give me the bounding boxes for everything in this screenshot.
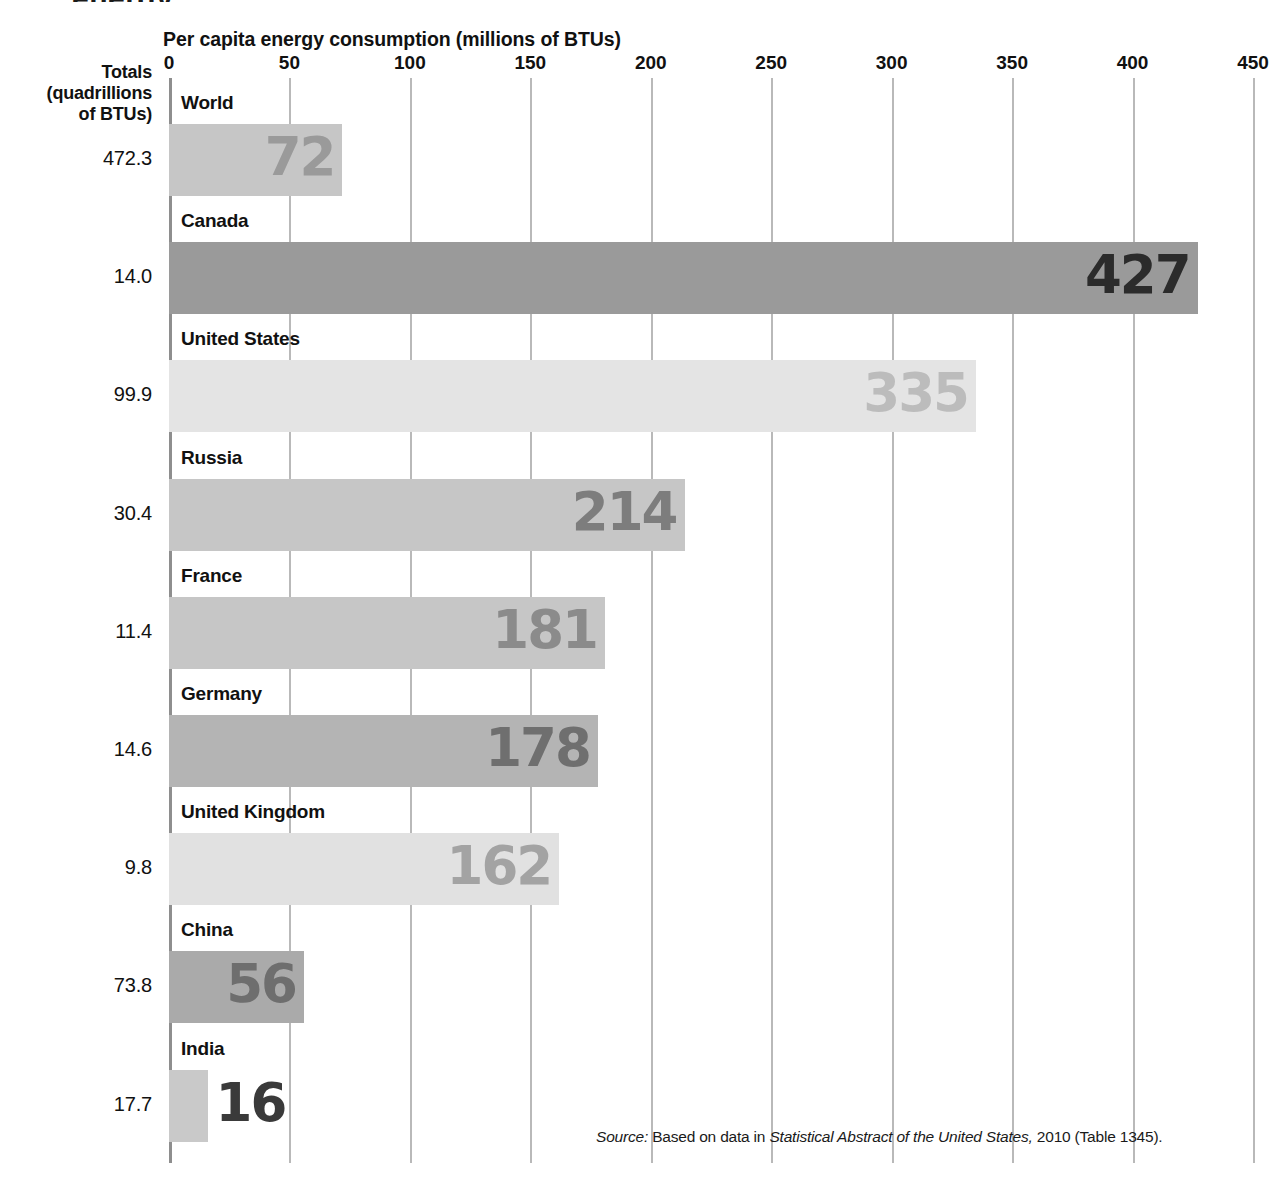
bar-value-world: 72: [169, 130, 342, 183]
bar-value-russia: 214: [169, 485, 685, 538]
x-tick-450: 450: [1237, 52, 1269, 74]
bar-label-france: France: [181, 565, 242, 587]
total-value-france: 11.4: [0, 620, 152, 643]
source-text-a: Based on data in: [652, 1128, 765, 1145]
plot-area: World72Canada427United States335Russia21…: [169, 78, 1253, 1163]
bar-value-united-kingdom: 162: [169, 839, 559, 892]
x-tick-200: 200: [635, 52, 667, 74]
bar-row: World72: [169, 78, 1253, 196]
x-tick-400: 400: [1117, 52, 1149, 74]
total-value-germany: 14.6: [0, 738, 152, 761]
energy-consumption-bar-chart: energy Per capita energy consumption (mi…: [0, 0, 1271, 1186]
bar-row: United Kingdom162: [169, 787, 1253, 905]
bar-label-russia: Russia: [181, 447, 242, 469]
totals-header-line-1: Totals: [0, 62, 152, 83]
bar-label-united-states: United States: [181, 328, 300, 350]
gridline-450: [1253, 78, 1255, 1163]
bar-label-india: India: [181, 1038, 224, 1060]
x-tick-50: 50: [279, 52, 300, 74]
bar-label-united-kingdom: United Kingdom: [181, 801, 325, 823]
bar-value-france: 181: [169, 603, 605, 656]
total-value-china: 73.8: [0, 974, 152, 997]
bar-row: United States335: [169, 314, 1253, 432]
total-value-russia: 30.4: [0, 502, 152, 525]
bar-label-world: World: [181, 92, 233, 114]
source-label: Source:: [596, 1128, 648, 1145]
bar-value-united-states: 335: [169, 366, 976, 419]
bar-row: Canada427: [169, 196, 1253, 314]
bar-label-canada: Canada: [181, 210, 248, 232]
total-value-world: 472.3: [0, 147, 152, 170]
x-tick-150: 150: [514, 52, 546, 74]
totals-header-line-2: (quadrillions: [0, 83, 152, 104]
bar-label-china: China: [181, 919, 233, 941]
total-value-united-kingdom: 9.8: [0, 856, 152, 879]
source-text-b: 2010 (Table 1345).: [1037, 1128, 1163, 1145]
x-tick-250: 250: [755, 52, 787, 74]
total-value-united-states: 99.9: [0, 383, 152, 406]
bar-label-germany: Germany: [181, 683, 262, 705]
bar-value-india: 16: [216, 1076, 286, 1129]
x-axis-title: Per capita energy consumption (millions …: [163, 28, 621, 51]
source-note: Source: Based on data in Statistical Abs…: [596, 1128, 1162, 1146]
x-tick-300: 300: [876, 52, 908, 74]
bar-value-canada: 427: [169, 248, 1198, 301]
cropped-title-fragment: energy: [72, 0, 173, 2]
bar-row: Germany178: [169, 669, 1253, 787]
bar-row: Russia214: [169, 433, 1253, 551]
totals-column-header: Totals (quadrillions of BTUs): [0, 62, 152, 125]
bar-value-china: 56: [169, 957, 304, 1010]
source-publication: Statistical Abstract of the United State…: [769, 1128, 1032, 1145]
bar-india: [169, 1070, 208, 1142]
totals-header-line-3: of BTUs): [0, 104, 152, 125]
total-value-india: 17.7: [0, 1093, 152, 1116]
x-tick-350: 350: [996, 52, 1028, 74]
x-tick-100: 100: [394, 52, 426, 74]
bar-row: India16: [169, 1024, 1253, 1142]
total-value-canada: 14.0: [0, 265, 152, 288]
x-tick-0: 0: [164, 52, 175, 74]
bar-value-germany: 178: [169, 721, 598, 774]
bar-row: China56: [169, 905, 1253, 1023]
bar-row: France181: [169, 551, 1253, 669]
